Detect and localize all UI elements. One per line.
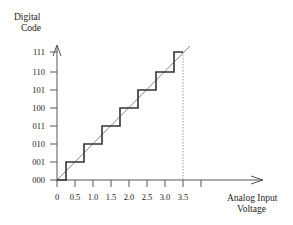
y-tick-label: 010 [19, 139, 45, 149]
ideal-linear-line [57, 46, 190, 180]
y-axis-label-line2: Code [21, 23, 41, 34]
x-tick-label: 1.5 [101, 192, 121, 202]
x-tick-label: 3.5 [173, 192, 193, 202]
x-tick-label: 2.0 [119, 192, 139, 202]
x-tick-label: 1.0 [83, 192, 103, 202]
x-tick-label: 3.0 [155, 192, 175, 202]
x-ticks [57, 180, 201, 187]
y-tick-label: 000 [19, 175, 45, 185]
x-tick-label: 0 [47, 192, 67, 202]
y-tick-label: 110 [19, 67, 45, 77]
y-tick-label: 001 [19, 157, 45, 167]
y-tick-label: 101 [19, 85, 45, 95]
x-tick-label: 2.5 [137, 192, 157, 202]
x-axis-label-line2: Voltage [237, 204, 266, 215]
y-tick-label: 111 [19, 47, 45, 57]
x-axis-label-line1: Analog Input [227, 193, 277, 204]
y-axis-label-line1: Digital [14, 12, 40, 23]
x-tick-label: 0.5 [65, 192, 85, 202]
y-tick-label: 100 [19, 103, 45, 113]
y-ticks [50, 52, 57, 162]
y-tick-label: 011 [19, 121, 45, 131]
